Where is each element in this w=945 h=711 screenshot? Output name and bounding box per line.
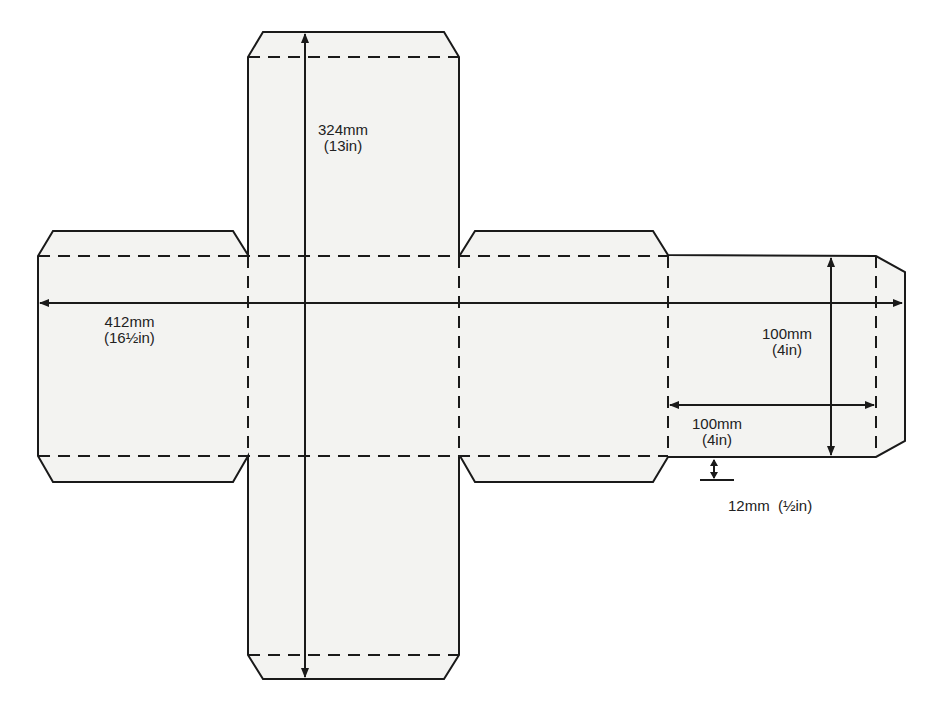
width-mm: 412mm	[104, 314, 155, 330]
height-inch: (13in)	[318, 138, 368, 154]
face-height-inch: (4in)	[762, 342, 812, 358]
flap-label: 12mm (½in)	[728, 466, 812, 530]
height-label: 324mm (13in)	[318, 122, 368, 154]
face-height-mm: 100mm	[762, 326, 812, 342]
height-mm: 324mm	[318, 122, 368, 138]
face-width-inch: (4in)	[692, 432, 742, 448]
flap-text: 12mm (½in)	[728, 498, 812, 514]
width-label: 412mm (16½in)	[104, 314, 155, 346]
face-width-mm: 100mm	[692, 416, 742, 432]
width-inch: (16½in)	[104, 330, 155, 346]
face-height-label: 100mm (4in)	[762, 326, 812, 358]
face-width-label: 100mm (4in)	[692, 416, 742, 448]
